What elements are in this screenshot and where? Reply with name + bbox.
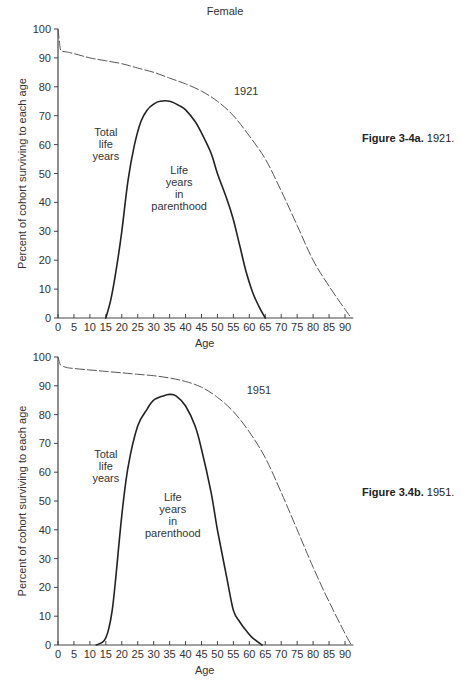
annotation-line: Life — [164, 491, 182, 503]
annotation-line: parenthood — [145, 527, 201, 539]
chart-panel-b: 0510152025303540455055606570758085900102… — [16, 351, 353, 676]
y-tick-label: 60 — [39, 139, 51, 151]
y-axis-label: Percent of cohort surviving to each age — [16, 406, 28, 597]
x-tick-label: 25 — [132, 321, 144, 333]
y-tick-label: 40 — [39, 524, 51, 536]
y-tick-label: 0 — [45, 639, 51, 651]
x-tick-label: 70 — [275, 321, 287, 333]
x-axis-label: Age — [195, 337, 215, 349]
annotation-line: Total — [94, 126, 117, 138]
x-tick-label: 35 — [163, 321, 175, 333]
x-tick-label: 90 — [339, 648, 351, 660]
x-tick-label: 65 — [259, 648, 271, 660]
annotation-line: in — [169, 515, 178, 527]
region-label: Lifeyearsinparenthood — [145, 491, 201, 539]
x-tick-label: 10 — [84, 648, 96, 660]
x-tick-label: 85 — [323, 648, 335, 660]
x-tick-label: 30 — [148, 648, 160, 660]
y-tick-label: 40 — [39, 196, 51, 208]
x-tick-label: 40 — [179, 321, 191, 333]
y-axis-label: Percent of cohort surviving to each age — [16, 78, 28, 269]
y-tick-label: 30 — [39, 553, 51, 565]
chart-title: Female — [207, 5, 244, 17]
region-label: Totallifeyears — [92, 448, 119, 484]
y-tick-label: 50 — [39, 495, 51, 507]
y-tick-label: 10 — [39, 610, 51, 622]
y-tick-label: 0 — [45, 312, 51, 324]
y-tick-label: 10 — [39, 283, 51, 295]
x-tick-label: 75 — [291, 321, 303, 333]
annotation-line: parenthood — [151, 200, 207, 212]
survival-curve-1921 — [58, 29, 351, 318]
x-tick-label: 50 — [211, 648, 223, 660]
figure-caption-b: Figure 3.4b. 1951. — [362, 486, 454, 498]
x-tick-label: 80 — [307, 648, 319, 660]
survival-curve-1951 — [58, 357, 351, 645]
y-tick-label: 60 — [39, 466, 51, 478]
y-tick-label: 70 — [39, 437, 51, 449]
x-tick-label: 70 — [275, 648, 287, 660]
annotation-line: years — [166, 176, 193, 188]
x-tick-label: 90 — [339, 321, 351, 333]
x-tick-label: 75 — [291, 648, 303, 660]
x-tick-label: 10 — [84, 321, 96, 333]
y-tick-label: 100 — [33, 23, 51, 35]
series-label: 1951 — [247, 384, 271, 396]
y-tick-label: 80 — [39, 81, 51, 93]
y-tick-label: 90 — [39, 380, 51, 392]
x-tick-label: 45 — [195, 648, 207, 660]
x-tick-label: 20 — [116, 321, 128, 333]
x-tick-label: 5 — [71, 321, 77, 333]
y-tick-label: 70 — [39, 110, 51, 122]
x-tick-label: 25 — [132, 648, 144, 660]
x-tick-label: 40 — [179, 648, 191, 660]
y-tick-label: 30 — [39, 225, 51, 237]
caption-label: Figure 3.4b. — [362, 486, 424, 498]
y-tick-label: 90 — [39, 52, 51, 64]
x-tick-label: 65 — [259, 321, 271, 333]
annotation-line: in — [175, 188, 184, 200]
figure-canvas: Female0510152025303540455055606570758085… — [0, 0, 469, 699]
x-tick-label: 15 — [100, 648, 112, 660]
y-tick-label: 20 — [39, 254, 51, 266]
y-tick-label: 100 — [33, 351, 51, 363]
y-tick-label: 50 — [39, 168, 51, 180]
caption-label: Figure 3-4a. — [362, 132, 424, 144]
x-axis-label: Age — [195, 664, 215, 676]
annotation-line: life — [99, 138, 113, 150]
annotation-line: 1921 — [234, 85, 258, 97]
annotation-line: 1951 — [247, 384, 271, 396]
x-tick-label: 45 — [195, 321, 207, 333]
x-tick-label: 55 — [227, 648, 239, 660]
annotation-line: life — [99, 460, 113, 472]
x-tick-label: 85 — [323, 321, 335, 333]
figure-caption-a: Figure 3-4a. 1921. — [362, 132, 454, 144]
x-tick-label: 0 — [55, 321, 61, 333]
caption-year: 1921. — [427, 132, 455, 144]
x-tick-label: 5 — [71, 648, 77, 660]
y-tick-label: 20 — [39, 581, 51, 593]
region-label: Lifeyearsinparenthood — [151, 164, 207, 212]
y-tick-label: 80 — [39, 409, 51, 421]
x-tick-label: 15 — [100, 321, 112, 333]
x-tick-label: 30 — [148, 321, 160, 333]
chart-panel-a: Female0510152025303540455055606570758085… — [16, 5, 353, 349]
region-label: Totallifeyears — [92, 126, 119, 162]
annotation-line: Total — [94, 448, 117, 460]
parenthood-curve — [96, 394, 262, 645]
caption-year: 1951. — [427, 486, 455, 498]
x-tick-label: 35 — [163, 648, 175, 660]
x-tick-label: 0 — [55, 648, 61, 660]
x-tick-label: 50 — [211, 321, 223, 333]
annotation-line: years — [159, 503, 186, 515]
annotation-line: Life — [170, 164, 188, 176]
x-tick-label: 20 — [116, 648, 128, 660]
annotation-line: years — [92, 150, 119, 162]
annotation-line: years — [92, 472, 119, 484]
x-tick-label: 60 — [243, 321, 255, 333]
x-tick-label: 55 — [227, 321, 239, 333]
x-tick-label: 60 — [243, 648, 255, 660]
x-tick-label: 80 — [307, 321, 319, 333]
series-label: 1921 — [234, 85, 258, 97]
